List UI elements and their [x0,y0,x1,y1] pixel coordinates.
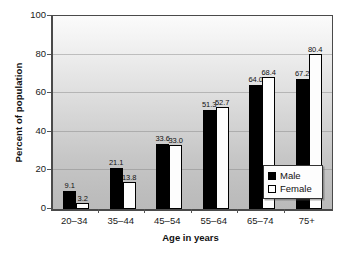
bar-value-label: 13.8 [122,174,137,182]
x-axis-tick-label: 20–34 [61,215,87,226]
legend-item-male: Male [268,169,318,182]
x-axis-tick-mark [284,209,285,213]
x-axis-tick-label: 35–44 [108,215,134,226]
y-axis-tick-label: 60 [20,87,46,97]
legend-swatch-male-icon [268,172,276,180]
bar-value-label: 3.2 [78,195,88,203]
bar-male: 21.1 [110,168,123,209]
x-axis-tick-label: 75+ [299,215,315,226]
bar-group: 33.633.0 [156,16,182,209]
legend-swatch-female-icon [268,185,276,193]
bar-male: 33.6 [156,144,169,209]
bar-group: 51.352.7 [203,16,229,209]
y-axis-tick-mark [47,208,51,209]
y-axis-tick-mark [47,92,51,93]
y-axis-tick-labels: 020406080100 [18,0,46,258]
gridline [53,131,332,132]
legend-label-male: Male [280,171,301,181]
bar-value-label: 9.1 [65,182,75,190]
bar-value-label: 68.4 [261,69,276,77]
gridline [53,54,332,55]
y-axis-tick-mark [47,169,51,170]
x-axis-tick-label: 55–64 [201,215,227,226]
x-axis-tick-label: 65–74 [247,215,273,226]
bar-female: 33.0 [169,145,182,209]
bar-group: 9.13.2 [63,16,89,209]
bar-value-label: 67.2 [295,70,310,78]
y-axis-tick-label: 20 [20,164,46,174]
x-axis-tick-mark [144,209,145,213]
bar-male: 51.3 [203,110,216,209]
y-axis-tick-label: 100 [20,10,46,20]
y-axis-tick-label: 40 [20,126,46,136]
bar-value-label: 64.0 [248,76,263,84]
x-axis-tick-mark [191,209,192,213]
x-axis-tick-mark [98,209,99,213]
x-axis-tick-mark [237,209,238,213]
y-axis-tick-mark [47,131,51,132]
bar-chart: Percent of population 020406080100 9.13.… [0,0,348,258]
y-axis-tick-label: 80 [20,49,46,59]
bar-group: 21.113.8 [110,16,136,209]
bar-male: 9.1 [63,191,76,209]
legend-item-female: Female [268,182,318,195]
bar-value-label: 21.1 [109,159,124,167]
chart-legend: Male Female [263,165,323,199]
bar-value-label: 52.7 [215,99,230,107]
x-axis-tick-label: 45–54 [154,215,180,226]
bar-value-label: 33.0 [168,137,183,145]
gridline [53,92,332,93]
bar-male: 64.0 [249,85,262,209]
bar-female: 13.8 [123,182,136,209]
y-axis-tick-mark [47,15,51,16]
y-axis-tick-mark [47,54,51,55]
bar-female: 52.7 [216,107,229,209]
y-axis-tick-label: 0 [20,203,46,213]
legend-label-female: Female [280,184,312,194]
bar-female: 3.2 [76,203,89,209]
x-axis-title: Age in years [51,232,330,243]
bar-value-label: 80.4 [308,46,323,54]
